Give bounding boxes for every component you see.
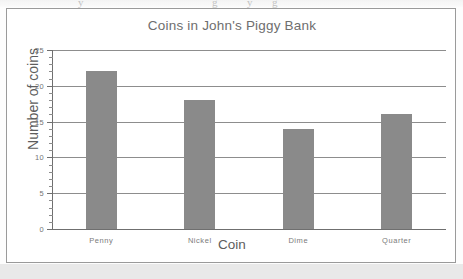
y-tick-minor bbox=[49, 64, 53, 65]
scan-artifact-top: y g y g bbox=[0, 0, 463, 7]
y-tick-minor bbox=[49, 143, 53, 144]
y-tick-minor bbox=[49, 136, 53, 137]
y-tick-minor bbox=[49, 200, 53, 201]
y-tick-minor bbox=[49, 172, 53, 173]
scan-artifact-bottom bbox=[0, 264, 463, 279]
y-tick-minor bbox=[49, 186, 53, 187]
bar bbox=[381, 114, 412, 229]
y-tick-minor bbox=[49, 93, 53, 94]
y-tick-label: 10 bbox=[35, 153, 44, 162]
bar bbox=[86, 71, 117, 229]
y-tick-major bbox=[47, 122, 53, 123]
y-tick-minor bbox=[49, 71, 53, 72]
x-axis-line bbox=[52, 229, 446, 230]
y-tick-label: 20 bbox=[35, 81, 44, 90]
scan-artifact-glyph: g bbox=[272, 0, 278, 8]
scanned-page: y g y g Coins in John's Piggy Bank Numbe… bbox=[0, 0, 463, 279]
y-tick-major bbox=[47, 157, 53, 158]
y-tick-minor bbox=[49, 208, 53, 209]
y-tick-major bbox=[47, 86, 53, 87]
y-tick-minor bbox=[49, 129, 53, 130]
y-tick-label: 5 bbox=[40, 189, 44, 198]
y-tick-minor bbox=[49, 179, 53, 180]
scan-artifact-glyph: y bbox=[247, 0, 253, 8]
y-tick-minor bbox=[49, 107, 53, 108]
y-tick-label: 0 bbox=[40, 225, 44, 234]
y-tick-minor bbox=[49, 57, 53, 58]
plot-area: 0510152025 PennyNickelDimeQuarter bbox=[52, 50, 446, 229]
y-tick-minor bbox=[49, 222, 53, 223]
y-tick-minor bbox=[49, 100, 53, 101]
gridline bbox=[52, 50, 446, 51]
y-axis-line bbox=[52, 50, 53, 230]
y-tick-label: 15 bbox=[35, 117, 44, 126]
y-tick-major bbox=[47, 50, 53, 51]
y-tick-minor bbox=[49, 150, 53, 151]
chart-title: Coins in John's Piggy Bank bbox=[7, 18, 457, 33]
bar bbox=[184, 100, 215, 229]
y-tick-minor bbox=[49, 114, 53, 115]
chart-figure: Coins in John's Piggy Bank Number of coi… bbox=[6, 8, 456, 263]
y-tick-label: 25 bbox=[35, 46, 44, 55]
x-axis-label: Coin bbox=[7, 237, 457, 252]
y-tick-major bbox=[47, 229, 53, 230]
bar bbox=[283, 129, 314, 229]
scan-artifact-glyph: y bbox=[78, 0, 84, 8]
y-tick-major bbox=[47, 193, 53, 194]
scan-artifact-glyph: g bbox=[212, 0, 218, 8]
y-tick-minor bbox=[49, 215, 53, 216]
y-tick-minor bbox=[49, 79, 53, 80]
y-tick-minor bbox=[49, 165, 53, 166]
